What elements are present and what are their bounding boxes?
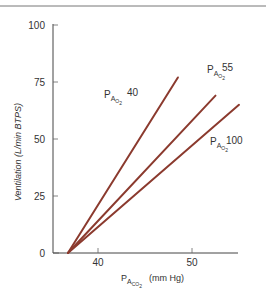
y-axis: 0255075100 <box>28 20 59 259</box>
svg-text:(mm Hg): (mm Hg) <box>149 273 184 283</box>
series-label-pao2-40: PAO2 40 <box>104 87 139 106</box>
series-label-pao2-55: PAO2 55 <box>207 62 234 81</box>
x-axis-title: PACO2 (mm Hg) <box>121 273 184 289</box>
svg-text:100: 100 <box>226 135 243 146</box>
series-line-40 <box>68 77 178 253</box>
svg-text:55: 55 <box>222 62 234 73</box>
x-tick-label: 40 <box>92 257 104 268</box>
svg-text:40: 40 <box>127 87 139 98</box>
y-axis-title: Ventilation (L/min BTPS) <box>13 103 23 201</box>
y-tick-label: 50 <box>34 134 46 145</box>
series-lines <box>68 77 239 253</box>
y-tick-label: 100 <box>28 20 45 31</box>
ventilation-chart: 0255075100 4050 Ventilation (L/min BTPS)… <box>0 0 270 300</box>
series-line-100 <box>68 105 239 253</box>
y-tick-label: 25 <box>34 191 46 202</box>
series-line-55 <box>68 96 216 253</box>
svg-text:PACO2: PACO2 <box>121 273 142 289</box>
x-axis: 4050 <box>53 248 238 268</box>
svg-text:PAO2: PAO2 <box>104 89 122 106</box>
x-tick-label: 50 <box>186 257 198 268</box>
y-tick-label: 75 <box>34 77 46 88</box>
y-tick-label: 0 <box>39 248 45 259</box>
series-label-pao2-100: PAO2 100 <box>210 135 243 153</box>
